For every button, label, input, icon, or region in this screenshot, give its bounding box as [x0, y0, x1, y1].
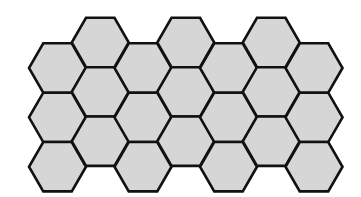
hexagon-layer — [29, 18, 343, 192]
hexagon-c6-r0 — [286, 43, 343, 92]
hexagon-c6-r2 — [286, 142, 343, 191]
hexagon-c6-r1 — [286, 93, 343, 142]
honeycomb-diagram — [0, 0, 361, 197]
